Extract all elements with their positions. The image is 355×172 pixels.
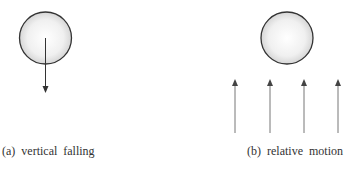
up-arrow-icon — [232, 79, 238, 133]
caption-b: (b) relative motion — [247, 144, 343, 159]
panel-a — [20, 12, 72, 93]
panel-b — [232, 12, 341, 133]
up-arrow-icon — [335, 79, 341, 133]
up-arrow-icon — [267, 79, 273, 133]
sphere-icon — [261, 12, 313, 64]
up-arrow-icon — [301, 79, 307, 133]
caption-a: (a) vertical falling — [2, 144, 95, 159]
